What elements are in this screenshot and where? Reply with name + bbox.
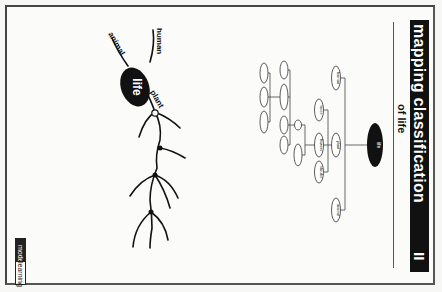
label-human: human bbox=[155, 28, 164, 54]
svg-text:human: human bbox=[336, 72, 341, 84]
svg-text:animal: animal bbox=[336, 204, 341, 216]
sketch-tree bbox=[112, 30, 185, 248]
label-animal: animal bbox=[106, 31, 126, 57]
svg-text:life: life bbox=[376, 142, 382, 149]
svg-text:plant: plant bbox=[336, 141, 341, 151]
root-node-life: life bbox=[367, 123, 383, 167]
node-leaf-2 bbox=[280, 84, 288, 110]
sketch-life-node: life bbox=[115, 63, 155, 110]
node-leaf-7 bbox=[260, 111, 268, 133]
node-small-a bbox=[295, 120, 302, 130]
label-plant: plant bbox=[148, 89, 166, 110]
node-leaf-1 bbox=[280, 61, 288, 79]
node-leaf-3 bbox=[280, 116, 288, 134]
svg-text:shrubs: shrubs bbox=[319, 166, 324, 178]
logo-text-learning: learning bbox=[16, 262, 25, 287]
node-leaf-4 bbox=[280, 136, 288, 154]
svg-text:flowers: flowers bbox=[319, 139, 324, 152]
svg-text:trees: trees bbox=[319, 106, 324, 115]
node-leaf-5 bbox=[260, 63, 268, 83]
node-leaf-6 bbox=[260, 87, 268, 107]
node-small-b bbox=[294, 144, 302, 166]
brand-logo: model learning bbox=[15, 238, 26, 284]
svg-text:life: life bbox=[130, 78, 144, 96]
diagrams: life human plant animal trees flowers sh… bbox=[0, 0, 442, 292]
